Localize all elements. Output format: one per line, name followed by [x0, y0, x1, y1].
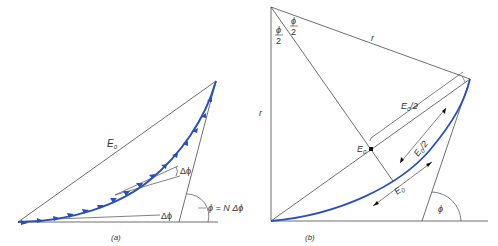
delta-phi-bracket: [176, 167, 178, 176]
arc-half-label: E0/2: [412, 139, 431, 159]
caption-a: (a): [111, 233, 121, 242]
half-angle-left-num: ϕ: [276, 25, 281, 35]
half-angle-right-den: 2: [291, 27, 296, 37]
phasor-diagram: E0 Δϕ Δϕ ϕ = N Δϕ (a): [0, 0, 498, 246]
radius-top-line: [271, 7, 470, 79]
delta-phi-ref-top-1: [115, 166, 178, 195]
center-point-label: E0: [357, 144, 367, 155]
delta-phi-bottom-label: Δϕ: [161, 211, 172, 221]
half-chord-label: E0/2: [401, 101, 418, 112]
arc-arrow-line: [373, 162, 432, 206]
radius-left-label: r: [259, 108, 263, 118]
arc-half-arrow-line: [400, 108, 446, 163]
panel-a: E0 Δϕ Δϕ ϕ = N Δϕ (a): [18, 81, 243, 242]
half-angle-right-num: ϕ: [291, 16, 296, 26]
final-direction-line: [179, 81, 216, 222]
arrow-icon: [53, 216, 60, 221]
panel-b: ϕ 2 ϕ 2 r r E0/2 E0 E0/2 E0 ϕ (b): [259, 7, 488, 242]
center-point: [369, 147, 373, 151]
phi-equation-label: ϕ = N Δϕ: [208, 203, 243, 213]
bisector-line: [271, 7, 393, 181]
arrow-icon: [442, 108, 446, 114]
phi-angle-label-b: ϕ: [438, 204, 443, 214]
caption-b: (b): [305, 233, 315, 242]
half-angle-left-den: 2: [276, 36, 281, 46]
arrow-icon: [373, 201, 379, 206]
arrow-icon: [400, 157, 404, 163]
arrow-icon: [426, 162, 432, 167]
delta-phi-top-label: Δϕ: [180, 166, 191, 176]
phi-angle-arc-b: [432, 192, 461, 221]
radius-top-label: r: [371, 33, 375, 43]
chord-label: E0: [107, 138, 118, 150]
arc-label: E0: [392, 183, 407, 198]
